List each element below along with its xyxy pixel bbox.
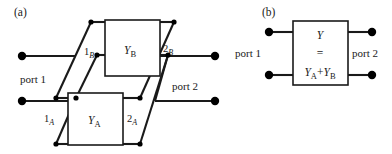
panel-b-terminal-port1-bottom <box>265 71 273 79</box>
panel-a-wire-port1-to-yb-in-lower-diag <box>76 55 97 98</box>
panel-a-terminal-1b-label: 1B <box>84 46 94 60</box>
panel-a-node-ya-out-top <box>137 95 142 100</box>
panel-a-node-ya-out-bottom <box>137 141 142 146</box>
panel-b-terminal-port2-bottom <box>368 71 376 79</box>
panel-a-node-yb-in-bottom <box>94 52 99 57</box>
panel-a-node-port1-bottom-junction <box>73 95 78 100</box>
panel-a-block-yb <box>105 20 160 76</box>
panel-a: (a) <box>14 6 219 147</box>
panel-a-label: (a) <box>14 6 27 19</box>
panel-b-terminal-port2-top <box>368 28 376 36</box>
panel-b-port1-label: port 1 <box>235 47 261 59</box>
panel-a-terminal-2a-label: 2A <box>127 113 137 127</box>
panel-b-label: (b) <box>262 6 276 19</box>
panel-a-node-yb-in-top <box>88 19 93 24</box>
panel-b-block-line2-equals: = <box>317 47 324 59</box>
panel-a-port1-label: port 1 <box>20 73 46 85</box>
panel-a-terminal-port1-bottom <box>18 97 26 105</box>
panel-a-port2-label: port 2 <box>172 80 198 92</box>
panel-a-wire-port1-to-yb-in-upper <box>56 22 91 98</box>
panel-a-node-ya-in-bottom <box>53 141 58 146</box>
figure-container: (a) <box>0 0 392 154</box>
panel-a-terminal-port2-top <box>211 52 219 60</box>
circuit-diagram-svg: (a) <box>0 0 392 154</box>
panel-b: (b) Y = YA+YB port 1 port 2 <box>235 6 378 85</box>
panel-a-node-yb-out-bottom <box>165 52 170 57</box>
panel-b-port2-label: port 2 <box>352 47 378 59</box>
panel-a-node-ya-in-top <box>53 95 58 100</box>
panel-a-terminal-1a-label: 1A <box>44 113 54 127</box>
panel-a-terminal-port1-top <box>18 52 26 60</box>
panel-a-node-yb-out-top <box>171 19 176 24</box>
panel-a-terminal-port2-bottom <box>211 97 219 105</box>
panel-b-terminal-port1-top <box>265 28 273 36</box>
